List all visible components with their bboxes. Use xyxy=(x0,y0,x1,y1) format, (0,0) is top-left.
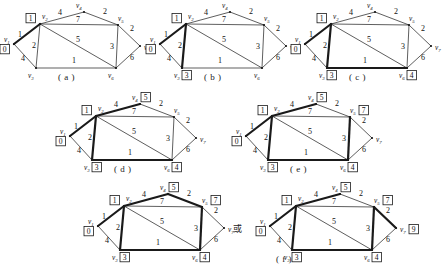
edge-weight-v4_v5: 2 xyxy=(249,7,253,16)
or-connector-text: 或 xyxy=(233,222,242,235)
edge-weight-v2_v3: 2 xyxy=(323,41,327,50)
vertex-node-v5 xyxy=(117,24,119,26)
edge-weight-v3_v6: 1 xyxy=(218,56,222,65)
edge-v5_v7 xyxy=(202,207,224,228)
vertex-node-v7 xyxy=(139,45,141,47)
distance-value-v4: 5 xyxy=(320,93,324,102)
edge-weight-v4_v5: 2 xyxy=(187,189,191,198)
edge-v2_v5 xyxy=(96,116,174,117)
vertex-label-v5: v5 xyxy=(374,197,380,206)
vertex-node-v7 xyxy=(395,227,397,229)
vertex-node-v2 xyxy=(185,23,187,25)
edge-weight-v2_v3: 2 xyxy=(116,223,120,232)
distance-value-v6: 4 xyxy=(175,163,179,172)
edge-v2_v5 xyxy=(331,24,409,25)
edge-weight-v3_v6: 1 xyxy=(328,238,332,247)
panel-caption-d: ( d ) xyxy=(114,164,132,174)
edge-v5_v6 xyxy=(172,117,174,160)
vertex-node-v4 xyxy=(83,11,85,13)
vertex-node-v4 xyxy=(167,193,169,195)
vertex-label-v2: v2 xyxy=(298,195,304,204)
graph-panel-a: 14247512326v10v21v3v4v5v6v7 xyxy=(6,4,158,84)
edge-weight-v2_v6: 5 xyxy=(222,35,226,44)
edge-weight-v6_v7: 6 xyxy=(386,235,390,244)
edge-v6_v7 xyxy=(172,138,196,160)
edge-weight-v6_v7: 6 xyxy=(362,145,366,154)
vertex-node-v3 xyxy=(119,249,121,251)
vertex-node-v6 xyxy=(347,159,349,161)
vertex-node-v3 xyxy=(35,67,37,69)
distance-value-v6: 4 xyxy=(375,253,379,262)
vertex-label-v4: v4 xyxy=(160,184,166,193)
vertex-label-v5: v5 xyxy=(202,197,208,206)
panel-caption-a: ( a ) xyxy=(58,72,75,82)
distance-value-v2: 1 xyxy=(29,14,33,23)
vertex-node-v2 xyxy=(271,115,273,117)
edge-v5_v6-selected xyxy=(348,117,350,160)
distance-value-v6: 4 xyxy=(203,253,207,262)
edge-v6_v7 xyxy=(372,228,396,250)
vertex-node-v4 xyxy=(229,11,231,13)
distance-value-v4: 5 xyxy=(344,183,348,192)
edge-weight-v1_v2: 1 xyxy=(18,30,22,39)
edge-weight-v6_v7: 6 xyxy=(214,235,218,244)
distance-value-v2: 1 xyxy=(175,14,179,23)
edge-v6_v7 xyxy=(200,228,224,250)
vertex-label-v5: v5 xyxy=(118,15,124,24)
edge-weight-v5_v6: 3 xyxy=(256,42,260,51)
vertex-label-v3: v3 xyxy=(319,72,325,81)
vertex-node-v5 xyxy=(263,24,265,26)
distance-value-v2: 1 xyxy=(320,14,324,23)
edge-v5_v6 xyxy=(116,25,118,68)
edge-weight-v1_v3: 4 xyxy=(77,146,81,155)
distance-value-v3: 3 xyxy=(185,71,189,80)
edge-weight-v5_v6: 3 xyxy=(194,224,198,233)
vertex-node-v2 xyxy=(330,23,332,25)
vertex-node-v6 xyxy=(171,159,173,161)
edge-v2_v3-selected xyxy=(182,24,186,68)
edge-weight-v5_v7: 2 xyxy=(362,116,366,125)
distance-value-v4: 5 xyxy=(172,183,176,192)
edge-weight-v5_v7: 2 xyxy=(386,206,390,215)
distance-value-v1: 0 xyxy=(3,45,7,54)
vertex-label-v2: v2 xyxy=(274,105,280,114)
edge-v2_v6 xyxy=(331,24,407,68)
edge-v2_v3-selected xyxy=(120,206,124,250)
edge-weight-v2_v4: 4 xyxy=(142,190,146,199)
edge-weight-v4_v5: 2 xyxy=(103,7,107,16)
edge-v5_v6 xyxy=(407,25,409,68)
vertex-node-v5 xyxy=(173,116,175,118)
edge-v6_v7 xyxy=(407,46,431,68)
vertex-node-v4 xyxy=(139,103,141,105)
vertex-label-v3: v3 xyxy=(260,164,266,173)
edge-v4_v5 xyxy=(84,12,118,25)
vertex-label-v1: v1 xyxy=(4,36,10,45)
distance-value-v3: 3 xyxy=(330,71,334,80)
vertex-node-v1 xyxy=(69,135,71,137)
vertex-node-v7 xyxy=(223,227,225,229)
vertex-node-v7 xyxy=(195,137,197,139)
distance-value-v3: 3 xyxy=(295,253,299,262)
panel-caption-c: ( c ) xyxy=(349,72,366,82)
distance-value-v1: 0 xyxy=(259,227,263,236)
vertex-node-v5 xyxy=(408,24,410,26)
vertex-label-v2: v2 xyxy=(42,13,48,22)
edge-v4_v5-selected xyxy=(168,194,202,207)
graph-panel-b: 14247512326v10v21v33v4v5v6v7 xyxy=(152,4,304,84)
edge-v2_v6 xyxy=(40,24,116,68)
vertex-label-v4: v4 xyxy=(76,2,82,11)
edge-weight-v1_v3: 4 xyxy=(105,236,109,245)
distance-value-v3: 3 xyxy=(123,253,127,262)
edge-weight-v6_v7: 6 xyxy=(421,53,425,62)
edge-v4_v5 xyxy=(230,12,264,25)
edge-weight-v1_v3: 4 xyxy=(167,54,171,63)
vertex-label-v4: v4 xyxy=(222,2,228,11)
edge-v2_v5 xyxy=(296,206,374,207)
edge-weight-v1_v2: 1 xyxy=(74,122,78,131)
edge-v2_v6 xyxy=(272,116,348,160)
edge-v2_v6 xyxy=(124,206,200,250)
edge-weight-v2_v6: 5 xyxy=(332,217,336,226)
distance-value-v5: 7 xyxy=(362,106,366,115)
vertex-label-v6: v6 xyxy=(340,164,346,173)
edge-weight-v3_v6: 1 xyxy=(72,56,76,65)
